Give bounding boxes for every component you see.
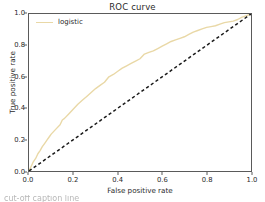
- legend-label-logistic: logistic: [58, 19, 83, 26]
- legend-swatch-logistic: [36, 22, 53, 23]
- y-tick-mark: [24, 140, 27, 141]
- legend: logistic: [36, 19, 83, 26]
- chart-title: ROC curve: [0, 2, 265, 12]
- x-tick-mark: [162, 172, 163, 175]
- x-tick-mark: [72, 172, 73, 175]
- plot-area: logistic: [28, 13, 252, 172]
- x-tick-mark: [252, 172, 253, 175]
- y-tick-mark: [24, 13, 27, 14]
- series-line-chance: [29, 14, 251, 171]
- y-tick-mark: [24, 108, 27, 109]
- x-tick-label: 0.0: [23, 176, 34, 184]
- cutoff-caption-text: cut-off caption line: [0, 195, 265, 202]
- x-tick-mark: [207, 172, 208, 175]
- cutoff-caption-strip: cut-off caption line: [0, 195, 265, 202]
- y-tick-mark: [24, 76, 27, 77]
- roc-curve-figure: ROC curve logistic 0.00.20.40.60.81.0 0.…: [0, 0, 265, 202]
- y-axis-label: True positive rate: [8, 33, 17, 133]
- y-tick-mark: [24, 44, 27, 45]
- x-tick-label: 0.6: [157, 176, 168, 184]
- x-tick-label: 0.4: [112, 176, 123, 184]
- x-tick-mark: [28, 172, 29, 175]
- x-axis-label: False positive rate: [28, 186, 252, 195]
- x-tick-label: 0.8: [202, 176, 213, 184]
- x-tick-label: 0.2: [67, 176, 78, 184]
- plot-canvas: [29, 14, 251, 171]
- x-tick-label: 1.0: [247, 176, 258, 184]
- x-tick-mark: [117, 172, 118, 175]
